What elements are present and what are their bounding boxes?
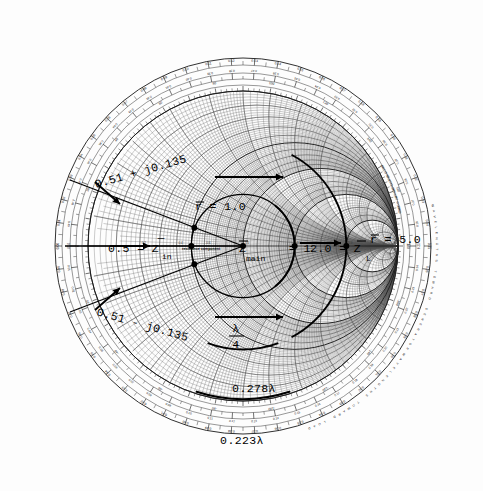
rim-wavelength-generator-label: 0.29 <box>402 332 409 340</box>
rim-wavelength-load-label: 0.24 <box>415 265 420 272</box>
rim-wavelength-load-label: 0.10 <box>185 410 192 416</box>
rim-wavelength-load-label: 0.14 <box>273 416 280 421</box>
smith-chart-svg: 0.000.500.010.490.020.480.030.470.040.46… <box>0 0 483 491</box>
rim-wavelength-load-label: 0.28 <box>403 178 409 185</box>
rim-angle-label: -100 <box>268 406 275 411</box>
rim-caption-toward-generator: E <box>418 323 422 326</box>
rim-angle-label: 140 <box>366 137 373 144</box>
rim-caption-toward-generator: S <box>434 259 438 261</box>
rim-wavelength-generator-label: 0.49 <box>57 266 62 273</box>
rim-wavelength-generator-label: 0.34 <box>318 411 326 417</box>
rim-wavelength-generator-label: 0.13 <box>251 59 258 63</box>
label-lambda-denominator: 4 <box>232 338 239 351</box>
rim-angle-label: -120 <box>322 386 330 393</box>
rim-caption-toward-load: D <box>307 426 311 431</box>
rim-wavelength-generator-label: 0.39 <box>205 426 212 431</box>
rim-wavelength-generator-label: 0.01 <box>57 219 62 226</box>
rim-caption-toward-generator: W <box>431 281 435 285</box>
rim-wavelength-generator-label: 0.04 <box>77 153 84 161</box>
rim-wavelength-load-label: 0.21 <box>394 327 400 334</box>
rim-angle-label: -140 <box>366 348 373 356</box>
rim-caption-toward-load: L <box>323 420 326 424</box>
rim-wavelength-load-label: 0.37 <box>251 69 257 73</box>
rim-angle-label: -160 <box>395 299 401 307</box>
rim-wavelength-generator-label: 0.21 <box>402 153 409 161</box>
rim-wavelength-load-label: 0.19 <box>367 362 374 369</box>
rim-wavelength-generator-label: 0.25 <box>427 243 431 250</box>
rim-wavelength-generator-label: 0.18 <box>357 99 365 106</box>
rim-caption-toward-load: H <box>369 390 373 394</box>
rim-wavelength-load-label: 0.46 <box>86 158 92 165</box>
rim-wavelength-load-label: 0.38 <box>229 69 235 73</box>
rim-caption-toward-generator: E <box>434 232 438 234</box>
rim-caption-toward-generator: A <box>432 210 436 213</box>
rim-caption-toward-load: A <box>398 357 402 361</box>
rim-wavelength-load-label: 0.09 <box>165 402 172 408</box>
rim-wavelength-generator-label: 0.36 <box>274 426 281 431</box>
rim-wavelength-load-label: 0.45 <box>97 139 104 146</box>
rim-wavelength-generator-label: 0.02 <box>61 196 67 203</box>
rim-caption-toward-generator: R <box>416 328 421 332</box>
rim-wavelength-load-label: 0.15 <box>294 410 301 416</box>
rim-wavelength-generator-label: 0.16 <box>318 75 326 81</box>
rim-caption-toward-load: T <box>373 386 377 390</box>
rim-wavelength-load-label: 0.26 <box>415 221 420 228</box>
rim-wavelength-load-label: 0.16 <box>314 402 321 408</box>
rim-wavelength-generator-label: 0.26 <box>425 266 430 273</box>
rim-angle-label: 80 <box>212 81 216 86</box>
rim-angle-label: 120 <box>322 100 329 106</box>
rim-wavelength-generator-label: 0.20 <box>390 133 397 141</box>
label-z-two: 2.0 = Z <box>310 242 361 255</box>
rim-wavelength-load-label: 0.23 <box>410 286 415 293</box>
label-z-in: 0.5 = Z <box>108 242 159 255</box>
rim-wavelength-generator-label: 0.33 <box>338 399 346 406</box>
rim-wavelength-load-label: 0.08 <box>145 391 152 398</box>
rim-wavelength-load-label: 0.39 <box>207 71 214 76</box>
rim-caption-toward-load: N <box>381 378 385 382</box>
rim-wavelength-load-label: 0.35 <box>294 76 301 82</box>
rim-caption-angle-reflection: S <box>398 211 402 214</box>
rim-wavelength-load-label: 0.27 <box>410 199 415 206</box>
rim-caption-toward-load: V <box>395 361 399 365</box>
rim-caption-toward-generator: A <box>430 286 434 289</box>
rim-wavelength-generator-label: 0.07 <box>121 99 129 106</box>
rim-wavelength-load-label: 0.33 <box>333 94 340 101</box>
rim-wavelength-load-label: 0.02 <box>70 286 75 293</box>
rim-caption-toward-generator: H <box>435 254 439 256</box>
label-resistance-component: resistance component <box>182 247 221 251</box>
label-z-main-equals: = 1 <box>289 242 311 255</box>
rim-wavelength-load-label: 0.01 <box>67 265 72 272</box>
rim-wavelength-load-label: 0.07 <box>128 378 135 385</box>
rim-caption-toward-generator: E <box>422 313 426 316</box>
rim-caption-toward-generator: T <box>411 338 415 342</box>
rim-caption-toward-load: D <box>332 415 337 420</box>
rim-wavelength-generator-label: 0.46 <box>77 331 84 339</box>
rim-wavelength-load-label: 0.30 <box>381 139 388 146</box>
label-z-l-subscript: L <box>366 254 371 263</box>
rim-caption-toward-generator: N <box>420 318 425 322</box>
grid-resistance-label: 0.4 <box>179 241 184 245</box>
rim-wavelength-load-label: 0.42 <box>145 95 152 102</box>
rim-angle-label: -40 <box>113 349 119 355</box>
rim-wavelength-load-label: 0.22 <box>403 307 409 314</box>
rim-wavelength-generator-label: 0.11 <box>205 61 212 66</box>
rim-wavelength-generator-label: 0.38 <box>228 429 235 433</box>
rim-caption-toward-load: E <box>392 366 396 370</box>
rim-wavelength-generator-label: 0.48 <box>61 288 67 295</box>
rim-caption-toward-load: R <box>337 412 342 417</box>
rim-wavelength-load-label: 0.32 <box>351 107 358 114</box>
rim-caption-toward-generator: L <box>434 226 438 228</box>
rim-caption-toward-generator: T <box>435 249 439 251</box>
rim-caption-toward-load: A <box>342 409 346 413</box>
rim-caption-toward-generator: G <box>424 307 429 311</box>
rim-wavelength-generator-label: 0.42 <box>140 399 148 406</box>
rim-caption-toward-generator: R <box>405 347 410 352</box>
rim-wavelength-generator-label: 0.22 <box>412 174 418 182</box>
rim-wavelength-generator-label: 0.43 <box>121 385 129 392</box>
rim-caption-toward-load: A <box>313 424 316 428</box>
rim-wavelength-load-label: 0.20 <box>382 345 389 352</box>
rim-wavelength-load-label: 0.36 <box>272 71 279 76</box>
rim-wavelength-generator-label: 0.05 <box>89 133 96 141</box>
smith-chart-root: 0.000.500.010.490.020.480.030.470.040.46… <box>0 0 483 491</box>
rim-angle-label: 40 <box>114 137 120 143</box>
